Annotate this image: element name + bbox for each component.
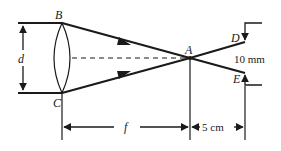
point-b-label: B <box>55 8 63 22</box>
aperture-label: d <box>18 52 25 66</box>
focal-length-label: f <box>124 120 129 134</box>
lens-diagram: d 10 mm f 5 cm B C A D E <box>0 0 281 151</box>
point-c-label: C <box>53 96 62 110</box>
ray-c-to-a <box>62 58 190 93</box>
ray-b-to-a <box>62 23 190 58</box>
screen-distance-label: 5 cm <box>202 121 224 133</box>
point-a-label: A <box>184 43 193 57</box>
point-e-label: E <box>232 72 241 86</box>
spot-size-label: 10 mm <box>234 53 265 65</box>
point-d-label: D <box>230 31 240 45</box>
convex-lens <box>54 23 70 93</box>
